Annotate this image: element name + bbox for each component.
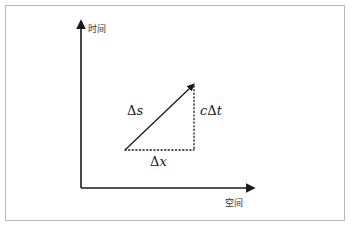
figure-canvas: 时间 空间 Δs cΔt Δx [0,0,353,230]
delta-glyph: Δ [150,154,159,169]
x-variable: x [159,154,166,169]
s-variable: s [136,103,143,118]
t-variable: t [217,103,222,118]
delta-glyph: Δ [127,103,136,118]
delta-s-label: Δs [127,103,143,118]
c-delta-t-label: cΔt [200,103,222,118]
spacetime-diagram [0,0,353,230]
delta-x-label: Δx [150,154,167,169]
delta-s-vector [125,88,190,150]
delta-glyph: Δ [207,103,216,118]
y-axis-label: 时间 [88,22,106,35]
x-axis-label: 空间 [225,196,243,209]
